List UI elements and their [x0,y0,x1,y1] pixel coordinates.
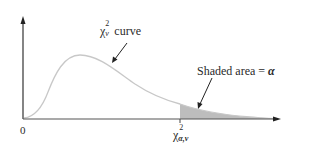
curve-label: χ2ν curve [100,24,141,39]
critical-value-superscript: 2 [179,123,183,132]
curve-pointer-arrow [115,43,127,59]
area-pointer-arrowhead [198,102,203,109]
area-pointer-arrow [200,78,212,104]
curve-label-scripts: 2ν [105,25,111,35]
shaded-area-label: Shaded area = α [197,64,275,79]
y-axis-arrowhead [21,16,26,24]
curve-label-subscript: ν [105,29,109,38]
critical-value-scripts: 2α,ν [178,129,194,139]
origin-label: 0 [20,124,26,136]
x-axis-arrowhead [273,117,281,122]
shaded-area-text: Shaded area = [197,64,268,78]
critical-value-label: χ2α,ν [173,128,194,143]
shaded-tail-area [180,104,276,119]
curve-label-superscript: 2 [105,19,109,28]
alpha-symbol: α [268,64,275,78]
curve-label-text: curve [114,24,141,38]
critical-value-subscript: α,ν [178,134,188,143]
